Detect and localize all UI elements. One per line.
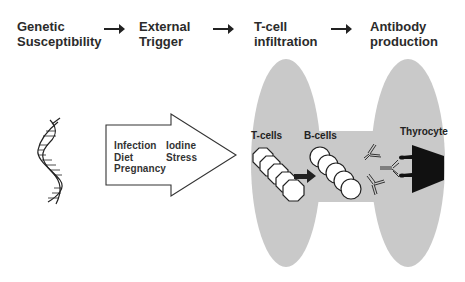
dna-helix-icon [38,118,62,204]
thyrocyte-label: Thyrocyte [400,126,448,137]
trigger-list-column-1: Infection Diet Pregnancy [114,140,166,175]
octagon-cell-icon [283,180,304,201]
b-cells-label: B-cells [304,130,337,141]
pathway-diagram [0,0,465,282]
t-cells-label: T-cells [251,130,282,141]
trigger-list-column-2: Iodine Stress [166,140,197,163]
circle-cell-icon [341,179,361,199]
